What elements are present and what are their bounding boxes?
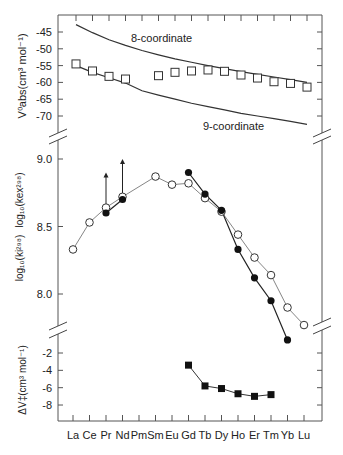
x-tick-label-pr: Pr xyxy=(101,429,112,441)
top-ylabel: V⁰abs(cm³ mol⁻¹) xyxy=(16,33,28,118)
delta-v-line xyxy=(189,365,272,396)
x-axis-lanthanides: LaCePrNdPmSmEuGdTbDyHoErTmYbLu xyxy=(67,429,310,441)
x-tick-label-sm: Sm xyxy=(147,429,164,441)
filled-square-marker xyxy=(268,391,275,398)
open-circle-marker xyxy=(69,246,77,254)
filled-circle-marker xyxy=(284,336,291,343)
open-circle-marker xyxy=(185,180,193,188)
filled-square-marker xyxy=(218,385,225,392)
open-circle-marker xyxy=(267,271,275,279)
open-square-marker xyxy=(188,67,196,75)
open-circle-marker xyxy=(168,181,176,189)
y-tick-label: -55 xyxy=(36,60,52,72)
y-tick-label: 9.0 xyxy=(37,153,52,165)
filled-square-marker xyxy=(235,390,242,397)
y-tick-label: -6 xyxy=(42,382,52,394)
filled-circle-marker xyxy=(201,191,208,198)
y-tick-label: -60 xyxy=(36,76,52,88)
bottom-ylabel: ΔV‡(cm³ mol⁻¹) xyxy=(17,345,28,414)
y-tick-label: -50 xyxy=(36,43,52,55)
open-square-marker xyxy=(303,83,311,91)
annotations: 8-coordinate 9-coordinate xyxy=(131,32,264,132)
arrow-head-icon xyxy=(120,159,125,164)
filled-circle-marker xyxy=(185,169,192,176)
y-tick-label: -4 xyxy=(42,364,52,376)
x-tick-label-tm: Tm xyxy=(263,429,279,441)
y-tick-label: -70 xyxy=(36,110,52,122)
x-tick-label-er: Er xyxy=(249,429,260,441)
open-circle-marker xyxy=(86,219,94,227)
label-8-coordinate: 8-coordinate xyxy=(131,32,192,44)
bottom-panel-activation-volume: -2-4-6-8 xyxy=(42,347,322,411)
filled-circle-marker xyxy=(119,196,126,203)
open-circle-marker xyxy=(284,304,292,312)
lanthanide-chart: -45-50-55-60-65-70 9.08.58.0 -2-4-6-8 La… xyxy=(0,0,343,455)
y-tick-label: 8.5 xyxy=(37,221,52,233)
x-tick-label-nd: Nd xyxy=(115,429,129,441)
y-tick-label: -8 xyxy=(42,399,52,411)
open-circle-marker xyxy=(251,254,259,262)
y-tick-label: -65 xyxy=(36,93,52,105)
open-square-marker xyxy=(270,78,278,86)
x-tick-label-ho: Ho xyxy=(231,429,245,441)
x-tick-label-eu: Eu xyxy=(165,429,178,441)
y-tick-label: -2 xyxy=(42,347,52,359)
y-axis-labels: V⁰abs(cm³ mol⁻¹) log₁₀(kex²⁹⁸) log₁₀(ki²… xyxy=(14,33,28,414)
open-square-marker xyxy=(237,71,245,79)
y-tick-label: 8.0 xyxy=(37,288,52,300)
open-circle-marker xyxy=(152,173,160,181)
open-square-marker xyxy=(254,74,262,82)
mid-ylabel-kex: log₁₀(kex²⁹⁸) xyxy=(14,173,25,228)
filled-circle-marker xyxy=(251,274,258,281)
x-tick-label-ce: Ce xyxy=(82,429,96,441)
x-tick-label-la: La xyxy=(67,429,80,441)
open-square-marker xyxy=(155,72,163,80)
filled-square-marker xyxy=(185,362,192,369)
open-square-marker xyxy=(171,68,179,76)
x-tick-label-gd: Gd xyxy=(181,429,196,441)
open-square-marker xyxy=(221,67,229,75)
open-square-marker xyxy=(122,75,130,83)
x-tick-label-yb: Yb xyxy=(281,429,294,441)
filled-square-marker xyxy=(202,382,209,389)
open-circle-marker xyxy=(300,321,308,329)
x-tick-label-tb: Tb xyxy=(199,429,212,441)
filled-circle-marker xyxy=(218,207,225,214)
filled-circle-marker xyxy=(267,297,274,304)
open-square-marker xyxy=(105,72,113,80)
label-9-coordinate: 9-coordinate xyxy=(203,120,264,132)
axes-frame xyxy=(49,15,331,421)
open-square-marker xyxy=(287,79,295,87)
open-square-marker xyxy=(89,67,97,75)
filled-circle-marker xyxy=(102,209,109,216)
open-square-marker xyxy=(204,66,212,74)
x-tick-label-pm: Pm xyxy=(131,429,148,441)
arrow-head-icon xyxy=(104,173,109,178)
middle-panel-rate-constants: 9.08.58.0 xyxy=(37,153,308,344)
x-tick-label-lu: Lu xyxy=(298,429,310,441)
mid-ylabel-ki: log₁₀(ki²⁹⁸) xyxy=(14,235,25,282)
open-circle-marker xyxy=(234,231,242,239)
open-square-marker xyxy=(72,60,80,68)
filled-square-marker xyxy=(251,393,258,400)
y-tick-label: -45 xyxy=(36,26,52,38)
x-tick-label-dy: Dy xyxy=(215,429,229,441)
filled-circle-marker xyxy=(234,246,241,253)
